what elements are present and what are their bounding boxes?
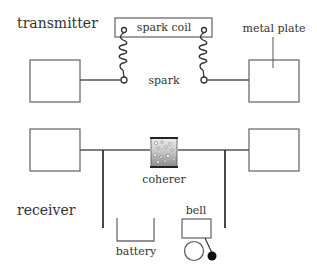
transmitter-left-plate <box>30 60 80 102</box>
coherer-label: coherer <box>142 173 186 186</box>
spark-gap-label: spark <box>148 74 180 87</box>
spark-coil-label: spark coil <box>137 21 192 34</box>
receiver-label: receiver <box>17 202 76 218</box>
receiver-section: coherer receiver battery bell <box>17 129 299 261</box>
coherer-icon <box>150 138 178 167</box>
transmitter-label: transmitter <box>17 15 98 31</box>
battery-icon <box>117 218 154 241</box>
transmitter-right-plate <box>249 60 299 102</box>
battery-label: battery <box>116 245 157 258</box>
spark-coil: spark coil <box>115 18 212 37</box>
radio-diagram: transmitter spark coil spark metal p <box>0 0 317 269</box>
transmitter-section: transmitter spark coil spark metal p <box>17 15 305 102</box>
receiver-right-plate <box>249 129 299 171</box>
receiver-left-plate <box>30 129 80 171</box>
metal-plate-label: metal plate <box>243 22 306 35</box>
bell-label: bell <box>186 204 207 217</box>
bell-icon <box>182 219 217 261</box>
